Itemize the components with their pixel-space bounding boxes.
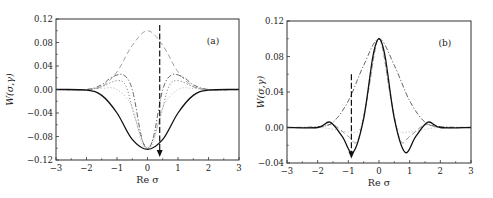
series-line-dash-dot — [56, 74, 239, 148]
series-line-light-dotted — [56, 88, 239, 149]
y-tick-label: −0.12 — [27, 155, 53, 165]
series-line-solid — [287, 39, 471, 153]
x-tick-label: −1 — [342, 166, 355, 176]
y-tick-label: −0.04 — [258, 158, 284, 168]
x-tick-label: 1 — [407, 166, 412, 176]
y-tick-label: 0.00 — [34, 85, 53, 95]
x-tick-label: 1 — [175, 163, 180, 173]
y-axis-title: W(σ,γ) — [4, 73, 15, 106]
series-group — [287, 39, 471, 153]
panel-label: (b) — [439, 38, 452, 48]
x-axis-title: Re σ — [368, 177, 391, 188]
y-tick-label: −0.08 — [27, 132, 53, 142]
x-tick-label: 2 — [206, 163, 211, 173]
x-tick-label: −2 — [311, 166, 324, 176]
chart-panel-b: −3−2−101230.120.080.040.00−0.04Re σW(σ,γ… — [255, 16, 474, 188]
series-group — [56, 31, 239, 150]
y-tick-label: 0.12 — [265, 16, 284, 26]
x-tick-label: −1 — [111, 163, 124, 173]
y-axis-title: W(σ,γ) — [255, 76, 266, 109]
series-line-solid — [56, 89, 239, 149]
x-tick-label: 3 — [236, 163, 241, 173]
y-tick-label: 0.00 — [265, 123, 284, 133]
arrow-head-icon — [348, 152, 354, 159]
x-tick-label: 0 — [145, 163, 150, 173]
y-tick-label: 0.04 — [265, 87, 284, 97]
arrow-head-icon — [157, 150, 163, 157]
panel-label: (a) — [207, 36, 219, 46]
y-tick-label: −0.04 — [27, 108, 53, 118]
y-tick-label: 0.12 — [34, 14, 53, 24]
series-line-dotted — [56, 81, 239, 149]
x-tick-label: 2 — [438, 166, 443, 176]
x-tick-label: 3 — [468, 166, 473, 176]
x-tick-label: 0 — [376, 166, 381, 176]
series-line-dotted — [287, 39, 471, 133]
series-line-dash-dot — [287, 39, 471, 128]
chart-panel-a: −3−2−101230.120.080.040.00−0.04−0.08−0.1… — [4, 14, 242, 185]
x-axis-title: Re σ — [136, 174, 159, 185]
figure: −3−2−101230.120.080.040.00−0.04−0.08−0.1… — [0, 0, 493, 198]
y-tick-label: 0.04 — [34, 61, 53, 71]
x-tick-label: −2 — [80, 163, 93, 173]
y-tick-label: 0.08 — [34, 38, 53, 48]
y-tick-label: 0.08 — [265, 52, 284, 62]
